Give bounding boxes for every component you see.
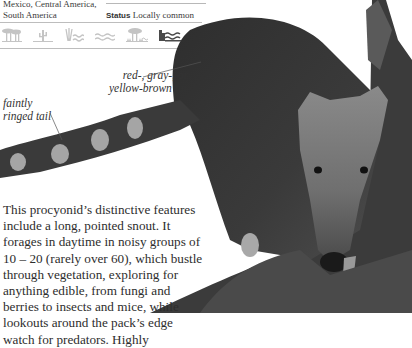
status-row: Status Locally common [106,10,194,21]
rainforest-icon [126,28,148,42]
tail-annotation: faintly ringed tail [3,97,51,123]
habitat-icons [2,26,181,42]
status-divider [106,3,206,4]
woodland-icon [2,28,22,42]
body-line: forages in daytime in noisy groups of [3,234,223,250]
range-line-2: South America [3,10,96,21]
top-divider [0,22,202,23]
bottom-divider [0,48,202,49]
fur-leader-line [143,60,203,80]
desert-icon [33,28,53,42]
coastal-mangrove-icon [159,28,181,42]
body-line: berries to insects and mice, while [3,299,223,315]
fur-annotation-line-2: yellow-brown fur [109,82,188,95]
body-line: include a long, pointed snout. It [3,218,223,234]
tail-annotation-line-2: ringed tail [3,110,51,123]
status-value: Locally common [133,10,194,20]
body-line: through vegetation, exploring for [3,267,223,283]
body-line: This procyonid’s distinctive features [3,202,223,218]
body-line: anything edible, from fungi and [3,283,223,299]
range-line-1: Mexico, Central America, [3,0,96,10]
body-text: This procyonid’s distinctive features in… [3,202,223,348]
body-line: 10 – 20 (rarely over 60), which bustle [3,251,223,267]
body-line: watch for predators. Highly [3,332,223,348]
range-text: Mexico, Central America, South America [3,0,96,21]
coati-paw [241,233,259,257]
status-label: Status [106,11,130,20]
coati-nose [320,252,348,272]
body-line: lookouts around the pack’s edge [3,315,223,331]
tail-leader-line [48,112,68,142]
wetland-icon [64,28,84,42]
tail-annotation-line-1: faintly [3,97,51,110]
water-icon [95,28,115,42]
leaf [342,256,356,294]
coati-head [298,86,388,262]
